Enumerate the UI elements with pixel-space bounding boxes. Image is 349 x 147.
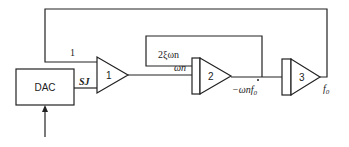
amp3-output-sub: 0 [326,88,330,96]
amp2-output-sub: 0 [254,89,258,97]
sj-label: SJ [79,76,91,87]
amplifier-3 [291,59,320,95]
omega-n-label: ωn [174,62,186,73]
amplifier-1-label: 1 [106,70,112,81]
amp2-output-coef: −ωn [232,84,251,95]
amplifier-3-input-bar [282,59,291,95]
amplifier-2 [200,58,231,94]
amplifier-2-input-bar [192,58,200,94]
dac-label: DAC [34,82,55,93]
amp3-output-label: f0 [323,83,330,96]
amplifier-2-label: 2 [208,71,214,82]
amplifier-1 [97,57,128,93]
amp2-output-label: −ωnf0 [232,84,258,97]
damping-gain-label: 2ξωn [158,49,179,61]
amplifier-3-label: 3 [299,72,305,83]
derivative-dot-icon [257,79,259,81]
block-diagram: DAC 1 2 3 1 SJ ωn 2ξωn −ωnf0 f0 [0,0,349,147]
feedback-gain-label: 1 [70,47,75,58]
arrow-up-icon [42,105,48,112]
